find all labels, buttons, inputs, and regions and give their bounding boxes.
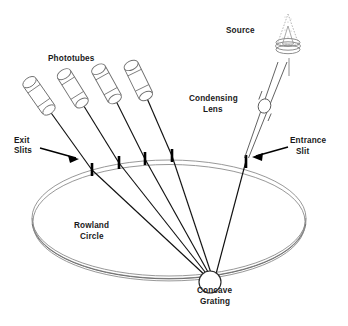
label-condensing-lens-line1: Condensing xyxy=(189,94,238,103)
beam-to-exit-slit-3 xyxy=(145,159,211,277)
label-concave-grating-line1: Concave xyxy=(197,286,232,295)
diffracted-beams xyxy=(92,156,212,278)
phototube-4 xyxy=(122,58,154,103)
exit-slit-marks xyxy=(92,149,172,176)
label-concave-grating-line2: Grating xyxy=(200,297,230,306)
phototube-group xyxy=(21,58,155,117)
spectrometer-schematic: Phototubes Exit Slits Rowland Circle Con… xyxy=(0,0,348,326)
beam-slit3-to-phototube3 xyxy=(115,99,145,159)
arrow-left-icon xyxy=(252,153,263,161)
exit-slits-arrow xyxy=(40,148,79,163)
label-phototubes: Phototubes xyxy=(48,54,95,63)
burner-coil-2 xyxy=(276,42,301,50)
beam-to-exit-slit-2 xyxy=(119,163,209,277)
label-exit-slits-line2: Slits xyxy=(14,146,32,155)
lens-barrel-left xyxy=(259,91,262,100)
rowland-circle-diagram: Phototubes Exit Slits Rowland Circle Con… xyxy=(0,0,348,326)
ring-bottom-arc xyxy=(32,224,306,279)
entrance-slit-arrow xyxy=(252,147,288,161)
label-source: Source xyxy=(226,26,255,35)
flame-outer-cone xyxy=(277,14,299,45)
beam-to-exit-slit-1 xyxy=(92,170,208,278)
label-entrance-slit-line1: Entrance xyxy=(290,136,327,145)
label-rowland-circle-line1: Rowland xyxy=(74,221,109,230)
beam-entrance-to-grating xyxy=(216,161,246,274)
ring-bottom-arc-2 xyxy=(33,227,305,281)
lens-barrel-right xyxy=(268,114,271,122)
exit-beams-to-phototubes xyxy=(49,96,172,170)
source-flame-burner xyxy=(276,14,301,76)
incident-beam xyxy=(216,161,246,274)
label-entrance-slit-line2: Slit xyxy=(296,147,309,156)
ring-top-ellipse xyxy=(32,160,306,276)
phototube-3 xyxy=(90,62,124,106)
phototube-2 xyxy=(55,66,90,110)
phototube-1 xyxy=(21,74,58,117)
condensing-lens xyxy=(256,97,272,115)
beam-to-exit-slit-4 xyxy=(172,156,212,276)
label-condensing-lens-line2: Lens xyxy=(203,105,223,114)
label-rowland-circle-line2: Circle xyxy=(80,232,104,241)
label-exit-slits-line1: Exit xyxy=(14,136,30,145)
source-optical-path xyxy=(245,62,288,158)
beam-slit2-to-phototube2 xyxy=(82,103,119,163)
beam-slit4-to-phototube4 xyxy=(146,96,172,156)
flame-inner-cone xyxy=(283,26,294,44)
